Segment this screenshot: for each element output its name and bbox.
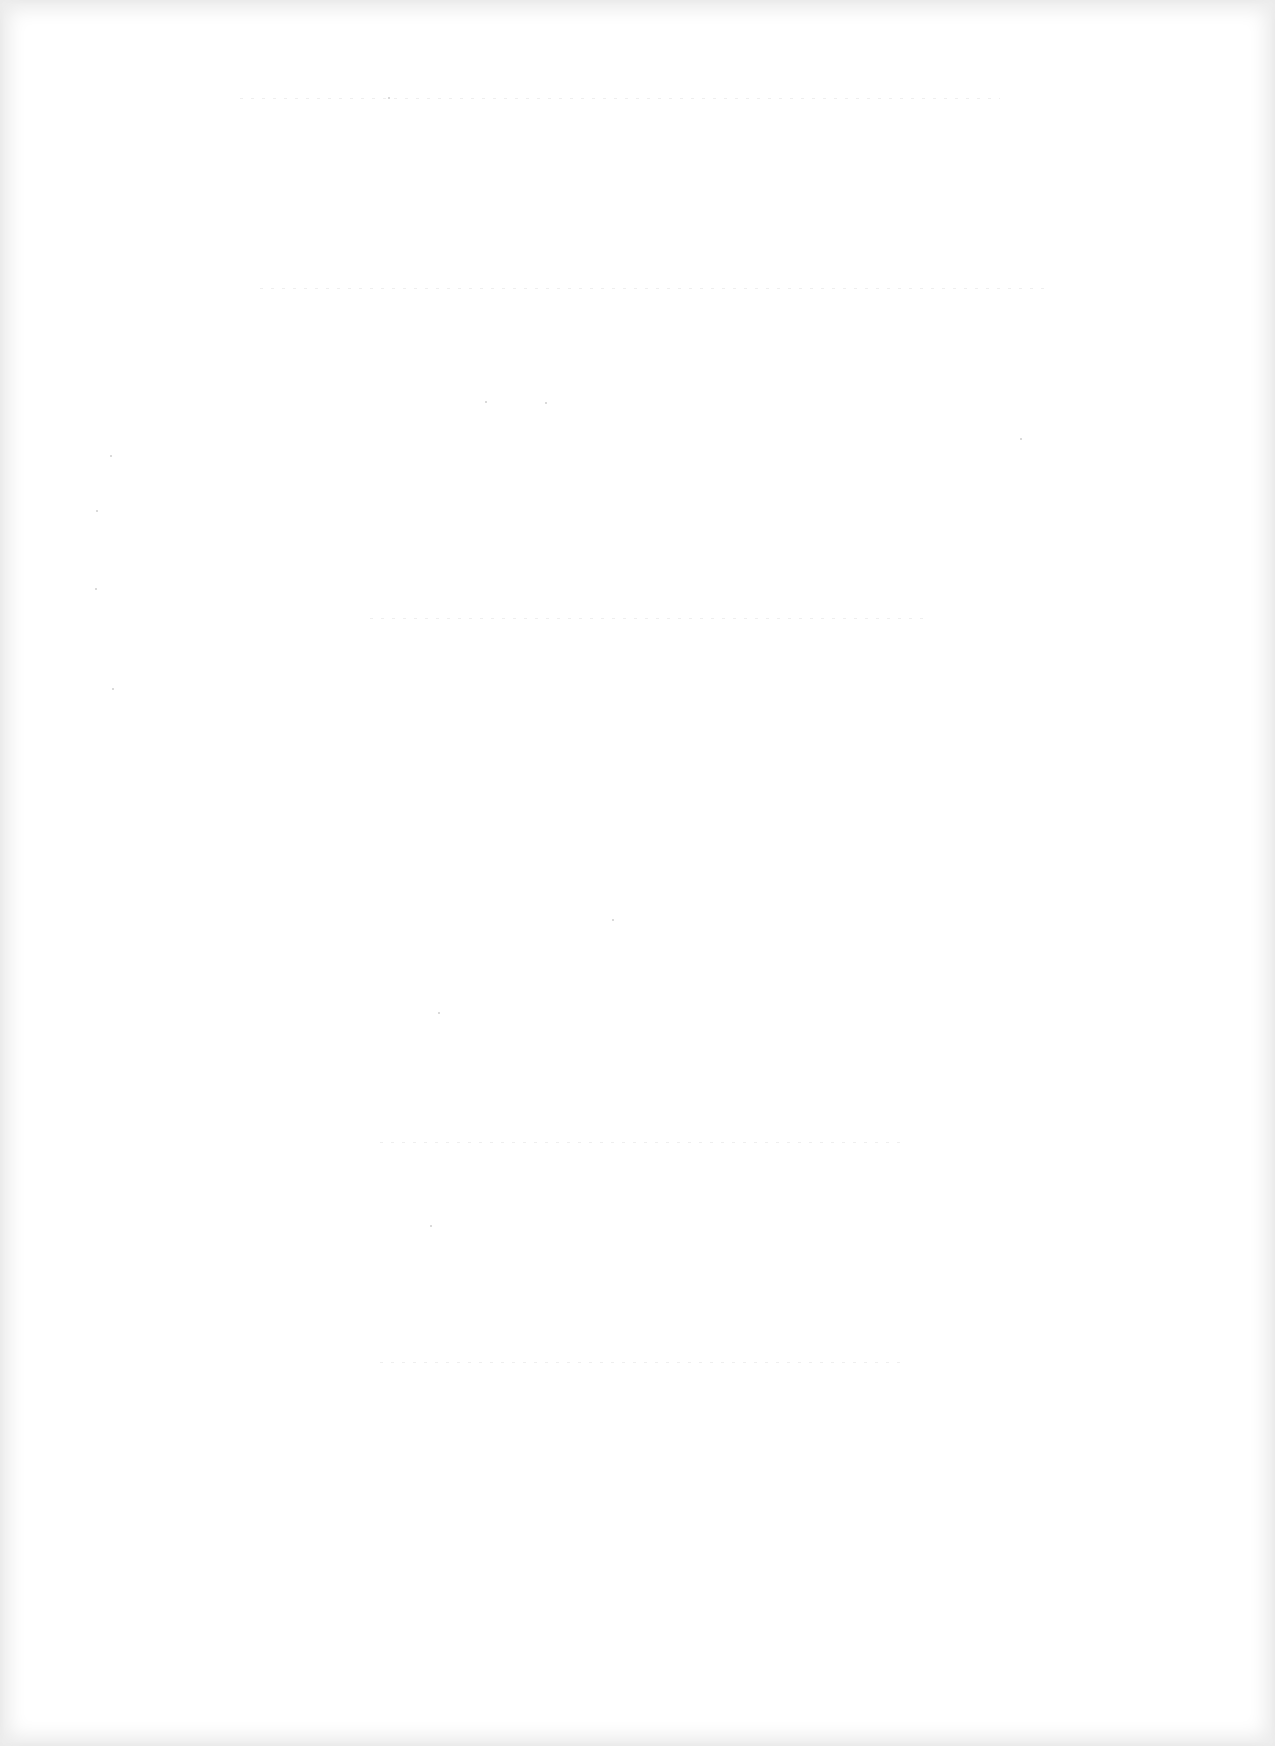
scan-speck: [545, 402, 547, 404]
bleed-through-line: [260, 288, 1050, 289]
bleed-through-line: [240, 98, 1000, 99]
scan-speck: [388, 97, 390, 99]
scan-speck: [485, 401, 487, 403]
scan-speck: [96, 510, 98, 512]
bleed-through-line: [370, 618, 930, 619]
blank-scanned-page: [0, 0, 1275, 1746]
scan-speck: [1020, 438, 1022, 440]
scan-speck: [112, 688, 114, 690]
scan-speck: [430, 1225, 432, 1227]
scan-speck: [110, 455, 112, 457]
scan-speck: [95, 588, 97, 590]
scan-speck: [438, 1012, 440, 1014]
bleed-through-line: [380, 1362, 900, 1363]
scan-speck: [612, 919, 614, 921]
bleed-through-line: [380, 1142, 900, 1143]
